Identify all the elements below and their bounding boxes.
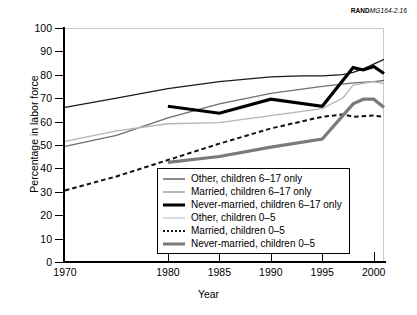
legend-swatch-icon-5 [163,238,185,249]
legend-swatch-icon-0 [163,173,185,184]
credit-report-id: MG164-2.16 [370,7,407,14]
y-tick-label-30: 30 [0,187,52,197]
y-tick-label-20: 20 [0,210,52,220]
legend-swatch-icon-1 [163,186,185,197]
y-tick-90 [55,51,64,52]
legend-label-1: Married, children 6–17 only [191,186,312,197]
x-tick-label-1995: 1995 [294,266,350,278]
x-axis-title: Year [0,288,417,300]
x-axis-spine [63,261,386,263]
y-tick-20 [55,215,64,216]
y-tick-label-80: 80 [0,70,52,80]
legend-item-5[interactable]: Never-married, children 0–5 [163,237,342,250]
series-line-0 [65,59,384,107]
y-tick-label-70: 70 [0,93,52,103]
figure: RANDMG164-2.16 0102030405060708090100 19… [0,0,417,315]
legend-swatch-icon-3 [163,212,185,223]
credit-rand: RAND [351,7,370,14]
legend-item-2[interactable]: Never-married, children 6–17 only [163,198,342,211]
x-tick-label-1990: 1990 [243,266,299,278]
legend-label-3: Other, children 0–5 [191,212,276,223]
y-tick-80 [55,75,64,76]
legend-item-3[interactable]: Other, children 0–5 [163,211,342,224]
y-tick-label-50: 50 [0,140,52,150]
x-tick-label-2000: 2000 [346,266,402,278]
y-tick-70 [55,98,64,99]
x-tick-label-1970: 1970 [37,266,93,278]
y-tick-label-10: 10 [0,234,52,244]
legend-item-1[interactable]: Married, children 6–17 only [163,185,342,198]
y-tick-60 [55,122,64,123]
legend-item-0[interactable]: Other, children 6–17 only [163,172,342,185]
legend-label-0: Other, children 6–17 only [191,173,302,184]
legend-label-2: Never-married, children 6–17 only [191,199,342,210]
legend-swatch-icon-2 [163,199,185,210]
x-tick-label-1980: 1980 [140,266,196,278]
legend-swatch-icon-4 [163,225,185,236]
y-tick-40 [55,168,64,169]
source-credit: RANDMG164-2.16 [351,7,407,14]
y-axis-title: Percentage in labor force [28,34,40,234]
y-tick-0 [55,262,64,263]
legend-item-4[interactable]: Married, children 0–5 [163,224,342,237]
y-tick-100 [55,28,64,29]
y-tick-50 [55,145,64,146]
x-tick-label-1985: 1985 [191,266,247,278]
legend-label-5: Never-married, children 0–5 [191,238,315,249]
y-tick-label-40: 40 [0,163,52,173]
x-tick-2000 [374,252,375,262]
legend: Other, children 6–17 onlyMarried, childr… [157,168,350,254]
y-tick-label-90: 90 [0,46,52,56]
y-tick-label-100: 100 [0,23,52,33]
y-tick-10 [55,239,64,240]
y-tick-30 [55,192,64,193]
legend-label-4: Married, children 0–5 [191,225,285,236]
y-tick-label-60: 60 [0,117,52,127]
